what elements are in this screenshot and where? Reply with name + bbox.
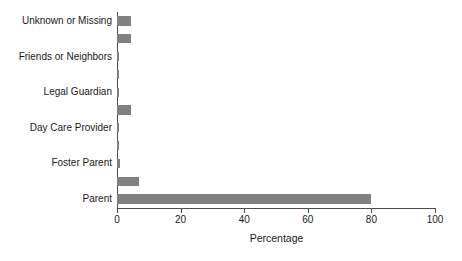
bar-row bbox=[117, 34, 435, 43]
bar-chart: ParentFoster ParentDay Care ProviderLega… bbox=[0, 0, 462, 261]
x-tick bbox=[435, 208, 436, 213]
x-tick-label: 60 bbox=[302, 214, 313, 226]
y-tick-label: Legal Guardian bbox=[0, 86, 112, 97]
bar-row bbox=[117, 105, 435, 114]
x-tick bbox=[181, 208, 182, 213]
bar bbox=[117, 123, 119, 132]
x-axis-line bbox=[117, 208, 436, 209]
bar bbox=[117, 159, 120, 168]
x-tick-label: 80 bbox=[366, 214, 377, 226]
bar-row bbox=[117, 88, 435, 97]
y-tick-label: Day Care Provider bbox=[0, 122, 112, 133]
x-tick bbox=[371, 208, 372, 213]
bar-row bbox=[117, 177, 435, 186]
bar bbox=[117, 34, 131, 43]
y-tick-label: Parent bbox=[0, 193, 112, 204]
x-tick bbox=[244, 208, 245, 213]
x-tick-label: 0 bbox=[114, 214, 120, 226]
bar-row bbox=[117, 141, 435, 150]
bar-row bbox=[117, 70, 435, 79]
x-axis-title: Percentage bbox=[117, 232, 436, 245]
bar bbox=[117, 16, 131, 25]
x-tick bbox=[117, 208, 118, 213]
y-tick-label: Foster Parent bbox=[0, 157, 112, 168]
bar bbox=[117, 52, 119, 61]
x-tick-label: 20 bbox=[175, 214, 186, 226]
plot-area bbox=[117, 12, 435, 208]
bar bbox=[117, 177, 139, 186]
bar-row bbox=[117, 52, 435, 61]
bar-row bbox=[117, 16, 435, 25]
y-tick-label: Unknown or Missing bbox=[0, 15, 112, 26]
bar bbox=[117, 105, 131, 114]
bar-row bbox=[117, 159, 435, 168]
x-tick-label: 100 bbox=[427, 214, 444, 226]
bar bbox=[117, 70, 119, 79]
bar-row bbox=[117, 123, 435, 132]
bar-row bbox=[117, 194, 435, 203]
bar bbox=[117, 194, 371, 203]
y-tick-label: Friends or Neighbors bbox=[0, 51, 112, 62]
x-tick-label: 40 bbox=[239, 214, 250, 226]
x-tick bbox=[308, 208, 309, 213]
bar bbox=[117, 88, 119, 97]
bar bbox=[117, 141, 119, 150]
